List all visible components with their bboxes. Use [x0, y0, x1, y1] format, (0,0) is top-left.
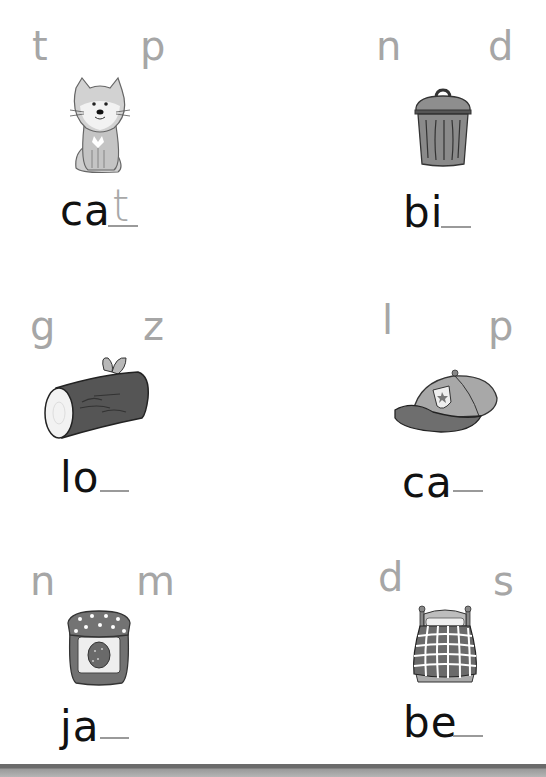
log-icon — [42, 354, 152, 442]
cat-icon — [68, 76, 130, 174]
choice-letter[interactable]: d — [378, 557, 403, 597]
choice-letter[interactable]: g — [30, 306, 55, 346]
answer-letter[interactable]: t — [112, 184, 129, 228]
choice-letter[interactable]: l — [382, 300, 393, 340]
answer-blank-line[interactable] — [100, 737, 129, 739]
choice-letter[interactable]: s — [493, 561, 514, 601]
choice-letter[interactable]: p — [140, 26, 165, 66]
choice-letter[interactable]: d — [488, 26, 513, 66]
word-stem: ca — [402, 462, 453, 504]
choice-letter[interactable]: z — [143, 306, 164, 346]
choice-letter[interactable]: n — [376, 26, 401, 66]
word-stem: be — [403, 702, 458, 744]
answer-blank-line[interactable] — [108, 225, 138, 227]
trash-bin-icon — [414, 88, 472, 168]
answer-blank-line[interactable] — [453, 735, 483, 737]
answer-blank-line[interactable] — [453, 490, 483, 492]
footer-bar — [0, 764, 546, 777]
word-stem: lo — [60, 457, 99, 499]
word-stem: ja — [60, 706, 99, 748]
word-stem: ca — [60, 190, 111, 232]
choice-letter[interactable]: n — [30, 561, 55, 601]
answer-blank-line[interactable] — [441, 226, 471, 228]
word-stem: bi — [403, 192, 443, 234]
answer-blank-line[interactable] — [100, 490, 129, 492]
cap-icon — [393, 368, 501, 436]
choice-letter[interactable]: t — [32, 26, 48, 66]
bed-icon — [410, 604, 480, 686]
choice-letter[interactable]: m — [136, 561, 175, 601]
choice-letter[interactable]: p — [488, 306, 513, 346]
jam-jar-icon — [66, 607, 132, 687]
